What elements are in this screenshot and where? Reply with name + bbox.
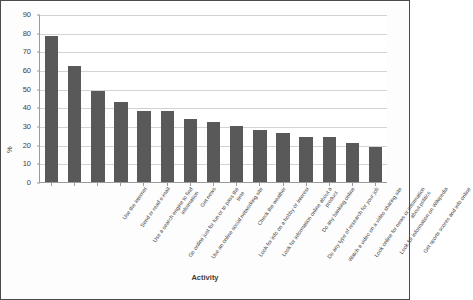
bar [45,36,58,182]
bar [230,126,243,182]
bar-series [40,15,387,182]
bar-slot [109,15,132,182]
x-axis-tick-mark [190,183,191,186]
plot-area [39,15,387,183]
y-axis-tick-label: 80 [23,30,31,38]
x-axis-tick-mark [74,183,75,186]
bar [161,111,174,182]
y-axis-tick-label: 30 [23,123,31,131]
x-axis-tick-mark [236,183,237,186]
bar [299,137,312,182]
bar-slot [271,15,294,182]
bar [276,133,289,182]
x-axis-tick-mark [167,183,168,186]
y-axis-ticks: 0102030405060708090 [1,15,35,183]
bar [369,147,382,182]
x-axis-tick-mark [213,183,214,186]
bar [253,130,266,182]
y-axis-tick-label: 10 [23,161,31,169]
bar-slot [86,15,109,182]
bar-slot [225,15,248,182]
x-axis-tick-mark [143,183,144,186]
bar-slot [133,15,156,182]
bar-slot [202,15,225,182]
bar-slot [248,15,271,182]
bar-slot [40,15,63,182]
x-axis-tick-mark [306,183,307,186]
bar [68,66,81,182]
bar [346,143,359,182]
bar [137,111,150,182]
bar [184,119,197,182]
x-axis-tick-mark [352,183,353,186]
x-axis-tick-mark [259,183,260,186]
bar [114,102,127,182]
x-axis-tick-mark [51,183,52,186]
bar-slot [364,15,387,182]
bar-slot [295,15,318,182]
x-axis-tick-mark [283,183,284,186]
bar [323,137,336,182]
x-axis-tick-mark [375,183,376,186]
bar-slot [156,15,179,182]
bar-slot [341,15,364,182]
bar-slot [318,15,341,182]
y-axis-tick-label: 90 [23,11,31,19]
y-axis-tick-label: 50 [23,86,31,94]
y-axis-tick-label: 40 [23,105,31,113]
x-axis-category-labels: Use the internetSend or read e-mailUse a… [39,183,387,269]
y-axis-tick-label: 60 [23,67,31,75]
x-axis-tick-mark [97,183,98,186]
x-axis-title: Activity [1,273,409,282]
x-axis-tick-mark [120,183,121,186]
bar [91,91,104,182]
bar-slot [63,15,86,182]
x-axis-tick-mark [329,183,330,186]
y-axis-tick-label: 0 [27,179,31,187]
y-axis-tick-label: 20 [23,142,31,150]
bar [207,122,220,182]
bar-slot [179,15,202,182]
y-axis-tick-label: 70 [23,49,31,57]
